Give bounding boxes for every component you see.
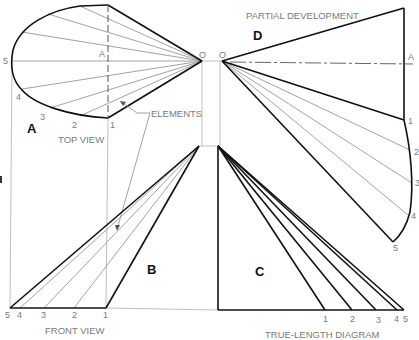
front-point-5: 5 xyxy=(5,310,10,320)
partial-development: O A 1 2 3 4 5 D PARTIAL DEVELOPMENT xyxy=(219,8,419,253)
front-view-caption: FRONT VIEW xyxy=(45,325,104,336)
projection-lines xyxy=(10,61,222,310)
front-point-4: 4 xyxy=(17,310,22,320)
front-view-elements xyxy=(20,146,199,308)
front-point-3: 3 xyxy=(41,310,46,320)
tl-point-5: 5 xyxy=(403,314,408,324)
dev-apex-label: O xyxy=(219,50,226,60)
cone-development-diagram: 5 4 3 2 1 A O A TOP VIEW ELEMENTS 5 4 3 … xyxy=(0,0,419,340)
top-point-4: 4 xyxy=(16,92,21,102)
front-view-letter: B xyxy=(147,262,156,277)
top-point-3: 3 xyxy=(40,112,45,122)
front-point-2: 2 xyxy=(72,310,77,320)
front-point-1: 1 xyxy=(103,310,108,320)
dev-point-2: 2 xyxy=(414,147,419,157)
elements-callout: ELEMENTS xyxy=(115,101,202,231)
dev-point-5: 5 xyxy=(393,243,398,253)
development-letter: D xyxy=(253,28,262,43)
top-point-1: 1 xyxy=(110,120,115,130)
top-view-caption: TOP VIEW xyxy=(58,134,104,145)
top-view: 5 4 3 2 1 A O A TOP VIEW xyxy=(3,5,206,145)
development-elements xyxy=(222,61,412,215)
tl-point-4: 4 xyxy=(394,314,399,324)
top-view-elements xyxy=(12,6,202,116)
dev-point-4: 4 xyxy=(411,211,416,221)
elements-label: ELEMENTS xyxy=(151,108,202,119)
tl-point-2: 2 xyxy=(350,314,355,324)
tl-point-1: 1 xyxy=(323,314,328,324)
dev-point-3: 3 xyxy=(415,178,419,188)
top-point-5: 5 xyxy=(3,56,8,66)
top-apex-label: O xyxy=(199,50,206,60)
edge-mark xyxy=(0,176,2,183)
true-length-caption: TRUE-LENGTH DIAGRAM xyxy=(265,329,380,340)
true-length-letter: C xyxy=(255,264,265,279)
top-view-base-curve xyxy=(12,5,108,118)
top-axis-label: A xyxy=(99,49,105,59)
dev-point-1: 1 xyxy=(408,116,413,126)
development-axis-dashed xyxy=(230,62,413,64)
development-caption: PARTIAL DEVELOPMENT xyxy=(246,10,359,21)
dev-axis-label: A xyxy=(408,52,414,62)
top-point-2: 2 xyxy=(72,120,77,130)
top-view-letter: A xyxy=(27,121,37,136)
tl-point-3: 3 xyxy=(376,315,381,325)
true-length-diagram: 1 2 3 4 5 C TRUE-LENGTH DIAGRAM xyxy=(218,146,408,340)
front-view: 5 4 3 2 1 B FRONT VIEW xyxy=(5,146,199,336)
